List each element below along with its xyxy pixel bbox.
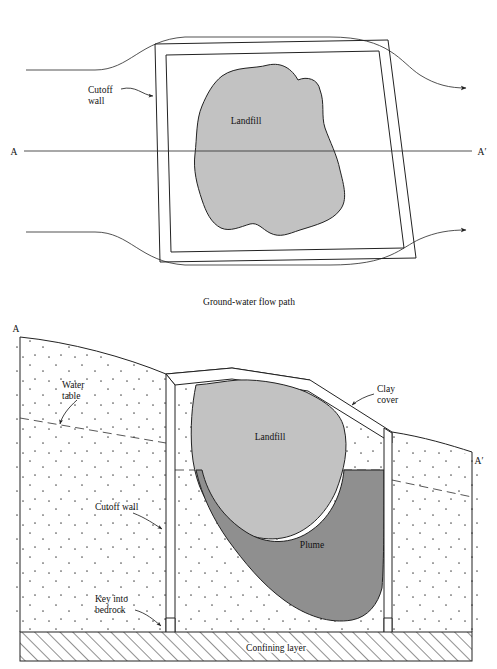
cross-section-view: Confining layer A A′ Landfill Plume Wate… [13, 324, 484, 661]
plan-view-caption: Ground-water flow path [203, 297, 295, 307]
key-into-bedrock-label-line2: bedrock [95, 605, 126, 615]
water-table-label-line2: table [62, 391, 80, 401]
flow-path-line-lower [26, 230, 466, 265]
landfill-cutoff-wall-figure: Landfill Cutoff wall A A′ Ground-water f… [0, 0, 497, 669]
landfill-plan-label: Landfill [231, 116, 262, 126]
plan-view: Landfill Cutoff wall A A′ Ground-water f… [11, 37, 487, 307]
clay-cover-label-line1: Clay [377, 384, 395, 394]
cutoff-wall-right-section [384, 428, 392, 632]
aquifer-body [16, 337, 166, 632]
cutoff-wall-left-section [166, 374, 175, 632]
clay-cover-leader [352, 394, 374, 405]
section-marker-a-prime-xsec: A′ [475, 456, 484, 466]
cutoff-wall-label-plan-line2: wall [88, 96, 105, 106]
section-marker-a-prime-plan: A′ [478, 147, 487, 157]
key-into-bedrock-label-line1: Key into [95, 594, 128, 604]
water-table-label-line1: Water [62, 380, 85, 390]
landfill-plan-shape [194, 64, 344, 235]
section-marker-a-xsec: A [13, 324, 20, 334]
cutoff-wall-label-section: Cutoff wall [95, 502, 139, 512]
section-marker-a-plan: A [11, 147, 18, 157]
aquifer-body-right [392, 433, 481, 632]
plume-section-label: Plume [300, 540, 324, 550]
cutoff-wall-leader-plan [121, 88, 153, 96]
confining-layer-label: Confining layer [246, 643, 307, 653]
landfill-section-label: Landfill [255, 432, 286, 442]
clay-cover-label-line2: cover [377, 395, 399, 405]
cutoff-wall-label-plan-line1: Cutoff [88, 85, 113, 95]
